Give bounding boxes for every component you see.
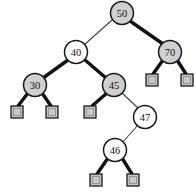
nil-leaf-square xyxy=(90,174,102,186)
edges-layer xyxy=(18,20,186,174)
tree-node-46: 46 xyxy=(104,139,127,162)
tree-edge xyxy=(43,60,68,78)
node-key-label: 30 xyxy=(30,80,41,91)
nil-leaf-node xyxy=(146,74,158,86)
tree-node-45: 45 xyxy=(103,74,126,97)
tree-edge xyxy=(84,20,112,45)
tree-edge xyxy=(153,60,163,74)
node-key-label: 40 xyxy=(71,47,82,58)
nil-leaf-node xyxy=(181,74,193,86)
tree-node-50: 50 xyxy=(111,2,134,25)
tree-edge xyxy=(97,158,108,174)
tree-node-30: 30 xyxy=(24,74,47,97)
tree-edge xyxy=(85,60,106,78)
node-key-label: 47 xyxy=(140,112,151,123)
tree-edge xyxy=(122,158,132,174)
nil-leaf-square xyxy=(181,74,193,86)
nil-leaf-node xyxy=(46,106,58,118)
node-key-label: 50 xyxy=(117,8,128,19)
node-key-label: 45 xyxy=(109,80,120,91)
nil-leaf-square xyxy=(11,106,23,118)
node-key-label: 46 xyxy=(110,145,121,156)
tree-edge xyxy=(177,60,186,74)
nil-leaf-node xyxy=(90,174,102,186)
tree-node-40: 40 xyxy=(65,41,88,64)
tree-node-47: 47 xyxy=(134,106,157,129)
tree-node-70: 70 xyxy=(159,41,182,64)
nil-leaf-node xyxy=(11,106,23,118)
tree-edge xyxy=(42,93,51,106)
tree-canvas: 50407030454746 xyxy=(0,0,196,196)
nil-leaf-square xyxy=(127,174,139,186)
nil-leaf-node xyxy=(84,106,96,118)
tree-edge xyxy=(122,125,138,143)
node-key-label: 70 xyxy=(165,47,176,58)
red-black-tree-figure: 50407030454746 xyxy=(0,0,196,196)
tree-edge xyxy=(122,93,139,109)
tree-edge xyxy=(18,93,28,106)
nil-leaf-node xyxy=(127,174,139,186)
tree-edge xyxy=(92,93,107,106)
tree-edge xyxy=(130,21,163,44)
nil-leaf-square xyxy=(146,74,158,86)
nil-leaf-square xyxy=(46,106,58,118)
nil-leaf-square xyxy=(84,106,96,118)
